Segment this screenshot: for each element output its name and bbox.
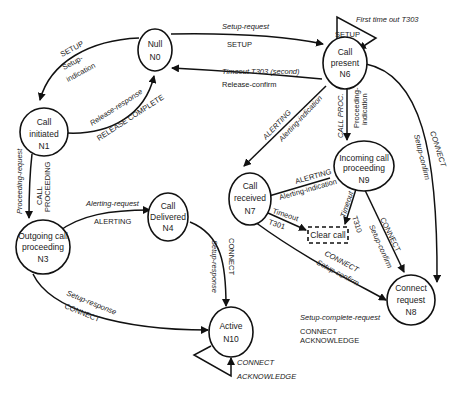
label-n0-n6-prim: Setup-request	[222, 22, 270, 31]
node-n8: Connect request N8	[387, 275, 435, 325]
svg-text:N7: N7	[245, 206, 256, 216]
svg-text:request: request	[397, 295, 426, 305]
label-n8-complete-msg1: CONNECT	[300, 327, 338, 336]
svg-text:N1: N1	[39, 141, 50, 151]
label-n10-self-msg2: ACKNOWLEDGE	[236, 372, 297, 381]
svg-text:Call: Call	[37, 117, 52, 127]
svg-text:Incoming call: Incoming call	[339, 153, 389, 163]
label-n9-clear-l2: T310	[350, 215, 364, 234]
svg-text:Call: Call	[338, 47, 353, 57]
svg-text:proceeding: proceeding	[22, 242, 64, 252]
node-n10: Active N10	[209, 307, 253, 357]
node-n7: Call received N7	[229, 173, 271, 225]
svg-text:N0: N0	[150, 52, 161, 62]
node-clear-call: Clear call	[308, 227, 348, 243]
label-n6-n8-msg: CONNECT	[428, 130, 448, 169]
node-n1: Call initiated N1	[20, 108, 68, 156]
label-n1-n3-msg2: PROCEEDING	[43, 161, 52, 212]
svg-text:present: present	[331, 58, 360, 68]
svg-text:N6: N6	[340, 69, 351, 79]
svg-text:N8: N8	[406, 307, 417, 317]
label-n10-self-msg1: CONNECT	[237, 358, 276, 367]
svg-text:N10: N10	[223, 334, 239, 344]
label-n4-n10-msg: CONNECT	[227, 238, 236, 276]
label-n6-n9-msg: CALL PROC.	[336, 94, 345, 138]
svg-text:initiated: initiated	[29, 129, 59, 139]
edge-n4-n10	[190, 222, 226, 306]
label-n6-n0-prim: Timeout T303 (second)	[222, 67, 300, 76]
svg-text:Delivered: Delivered	[150, 212, 186, 222]
svg-text:N4: N4	[163, 223, 174, 233]
svg-text:Call: Call	[161, 201, 176, 211]
label-n6-n0-msg: Release-confirm	[222, 80, 277, 89]
svg-text:Connect: Connect	[395, 283, 427, 293]
edge-n1-n3	[29, 154, 32, 218]
svg-text:proceeding: proceeding	[343, 163, 385, 173]
svg-text:Active: Active	[219, 321, 242, 331]
label-n0-n6-msg: SETUP	[227, 40, 252, 49]
label-n4-n10-prim: Setup-response	[210, 240, 219, 293]
svg-text:Null: Null	[148, 39, 163, 49]
svg-text:Call: Call	[243, 181, 258, 191]
svg-text:received: received	[234, 193, 266, 203]
node-n9: Incoming call proceeding N9	[334, 141, 394, 191]
label-n8-complete-prim: Setup-complete-request	[300, 313, 381, 322]
svg-text:N3: N3	[38, 254, 49, 264]
svg-text:Outgoing call: Outgoing call	[18, 231, 68, 241]
node-n0: Null N0	[138, 29, 172, 71]
label-n8-complete-msg2: ACKNOWLEDGE	[300, 336, 359, 345]
node-n3: Outgoing call proceeding N3	[16, 220, 70, 274]
label-n6-self-note: First time out T303	[356, 15, 419, 24]
label-n3-n4-msg: ALERTING	[94, 217, 132, 226]
svg-text:N9: N9	[359, 175, 370, 185]
edge-n3-n10	[33, 274, 208, 330]
label-n1-n3-prim: Proceeding-request	[15, 148, 24, 214]
state-diagram: SETUP Setup- indication Release-response…	[0, 0, 456, 395]
node-n4: Call Delivered N4	[148, 193, 188, 241]
label-n9-clear-l1: Timeout	[338, 189, 355, 218]
node-n6: Call present N6	[323, 37, 367, 89]
label-n3-n4-prim: Alerting-request	[85, 199, 140, 208]
label-n6-n9-prim2: indication	[360, 93, 369, 125]
svg-text:Clear call: Clear call	[310, 230, 346, 240]
